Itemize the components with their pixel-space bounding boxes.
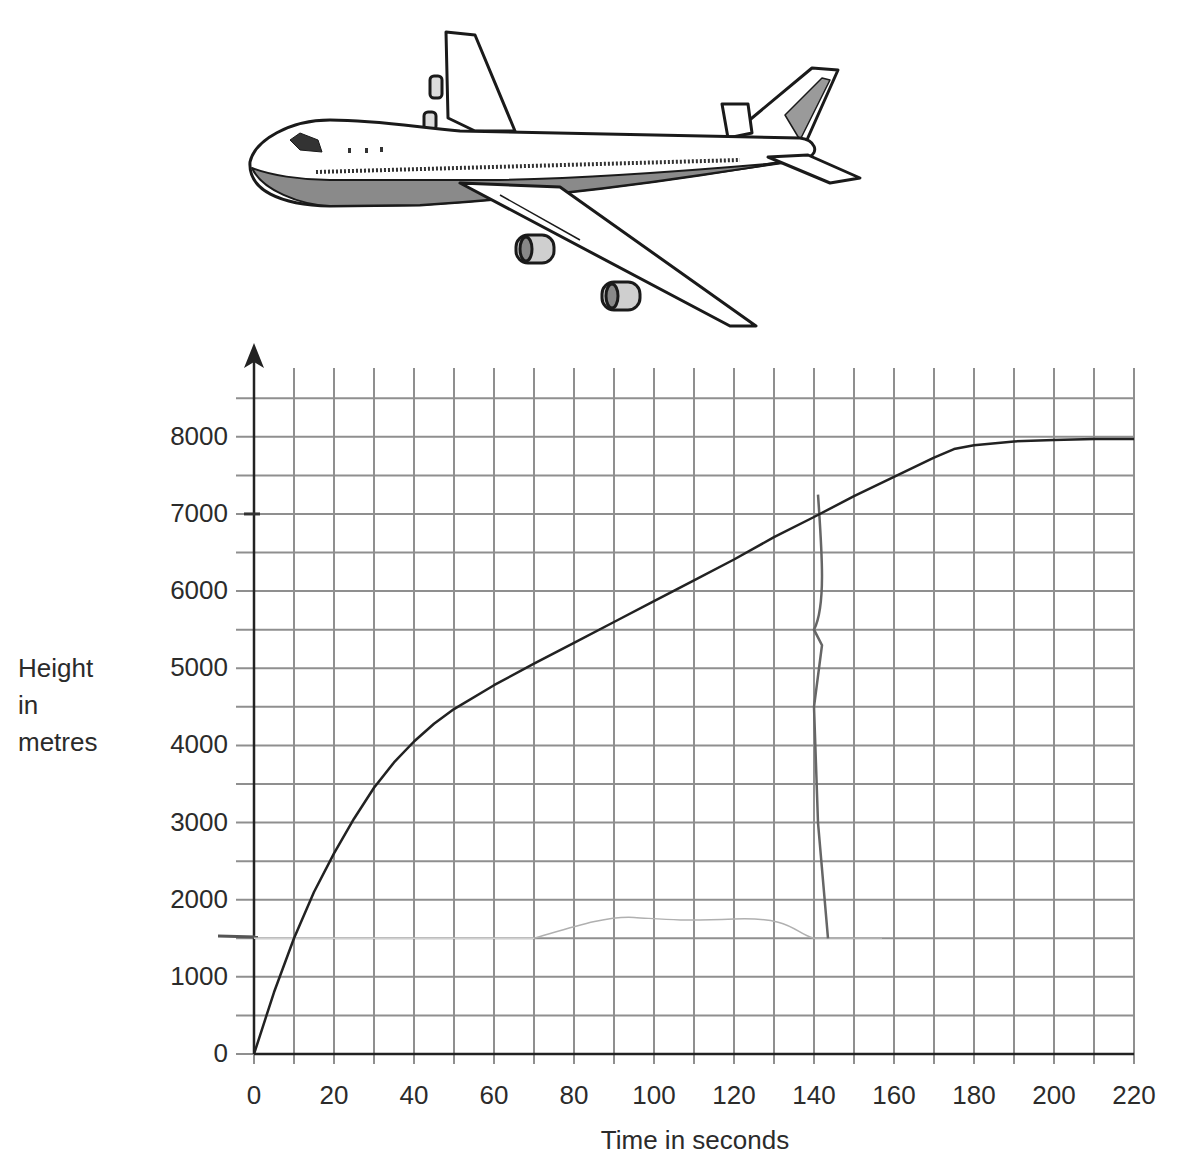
y-tick-label: 7000 — [128, 500, 228, 526]
y-axis-title-line-3: metres — [18, 724, 97, 761]
x-tick-label: 200 — [1019, 1082, 1089, 1108]
x-tick-label: 100 — [619, 1082, 689, 1108]
y-tick-label: 5000 — [128, 654, 228, 680]
x-tick-label: 60 — [459, 1082, 529, 1108]
pencil-annotations — [218, 495, 882, 939]
y-tick-label: 0 — [128, 1040, 228, 1066]
grid-lines — [236, 368, 1134, 1064]
x-tick-label: 0 — [219, 1082, 289, 1108]
x-tick-label: 40 — [379, 1082, 449, 1108]
x-axis-title: Time in seconds — [560, 1125, 830, 1155]
y-tick-label: 6000 — [128, 577, 228, 603]
x-tick-label: 180 — [939, 1082, 1009, 1108]
y-tick-label: 8000 — [128, 423, 228, 449]
x-tick-label: 120 — [699, 1082, 769, 1108]
y-axis-title-line-2: in — [18, 687, 97, 724]
y-tick-label: 4000 — [128, 731, 228, 757]
x-tick-label: 140 — [779, 1082, 849, 1108]
x-tick-label: 160 — [859, 1082, 929, 1108]
x-tick-label: 220 — [1099, 1082, 1169, 1108]
chart-figure: 010002000300040005000600070008000 020406… — [0, 0, 1178, 1173]
x-tick-label: 20 — [299, 1082, 369, 1108]
y-tick-label: 1000 — [128, 963, 228, 989]
y-tick-label: 3000 — [128, 809, 228, 835]
axes — [244, 343, 1134, 1054]
y-axis-title: Height in metres — [18, 650, 97, 761]
x-tick-label: 80 — [539, 1082, 609, 1108]
y-axis-title-line-1: Height — [18, 650, 97, 687]
y-tick-label: 2000 — [128, 886, 228, 912]
